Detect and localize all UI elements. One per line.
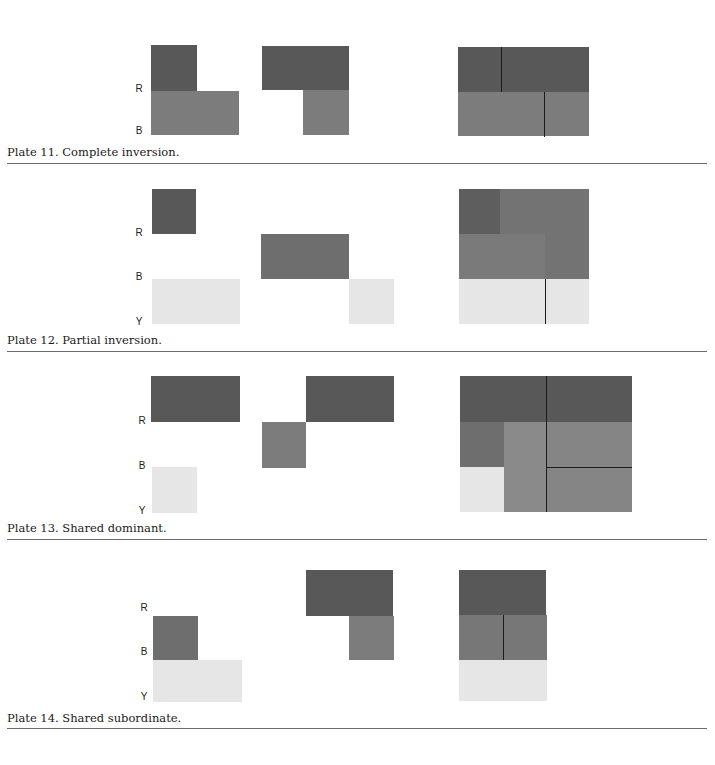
row-label-b: B	[132, 271, 146, 283]
composite-r-row	[459, 570, 546, 615]
caption: Plate 11. Complete inversion.	[7, 145, 179, 159]
r-block	[306, 570, 393, 616]
r-block	[151, 376, 240, 422]
composite-b-center	[504, 422, 546, 512]
row-label-y: Y	[137, 691, 151, 703]
b-block	[349, 616, 394, 660]
b-block	[261, 234, 349, 279]
y-block	[349, 279, 394, 324]
divider-rule	[7, 163, 707, 164]
composite-r-row	[458, 47, 589, 92]
composite-b-left	[460, 422, 504, 467]
y-block	[153, 660, 242, 702]
divider-line	[545, 279, 546, 324]
y-block	[152, 279, 240, 324]
r-block	[151, 45, 197, 91]
r-block	[306, 376, 394, 422]
b-block	[151, 91, 239, 135]
r-block	[262, 46, 349, 90]
y-block	[152, 467, 197, 513]
composite-y-row	[459, 660, 547, 701]
r-block	[152, 189, 196, 234]
caption: Plate 13. Shared dominant.	[7, 521, 167, 535]
divider-rule	[7, 351, 707, 352]
composite-r-corner	[459, 189, 500, 234]
row-label-b: B	[135, 460, 149, 472]
divider-line	[544, 92, 545, 137]
composite-b-row	[458, 92, 589, 136]
row-label-b: B	[132, 125, 146, 137]
b-block	[303, 90, 349, 135]
caption: Plate 14. Shared subordinate.	[7, 711, 181, 725]
row-label-r: R	[135, 415, 149, 427]
row-label-y: Y	[135, 505, 149, 517]
caption: Plate 12. Partial inversion.	[7, 333, 162, 347]
row-label-b: B	[137, 646, 151, 658]
divider-line	[503, 615, 504, 660]
b-block	[153, 616, 198, 660]
row-label-r: R	[132, 83, 146, 95]
composite-y-corner	[460, 467, 504, 512]
divider-line	[501, 47, 502, 92]
divider-rule	[7, 728, 707, 729]
row-label-r: R	[137, 602, 151, 614]
composite-b-area	[459, 234, 545, 279]
divider-line	[546, 376, 547, 512]
row-label-r: R	[132, 227, 146, 239]
divider-line	[546, 467, 632, 468]
divider-rule	[7, 539, 707, 540]
row-label-y: Y	[132, 316, 146, 328]
b-block	[262, 422, 306, 468]
composite-y-row	[459, 279, 589, 324]
